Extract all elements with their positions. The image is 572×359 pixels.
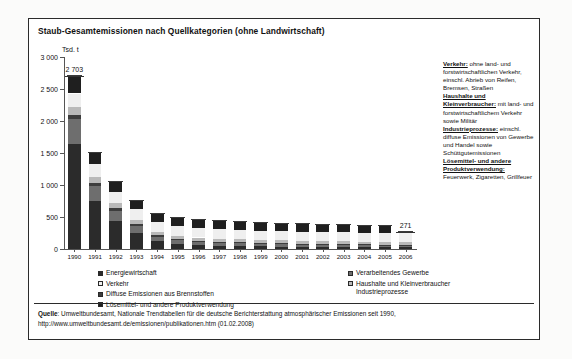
bar-2005 <box>379 226 392 249</box>
x-axis-tick <box>323 249 324 252</box>
bar-segment <box>358 244 371 245</box>
x-axis-label-2005: 2005 <box>378 253 392 260</box>
legend-item[interactable]: Verarbeitendes Gewerbe <box>348 269 450 277</box>
x-axis-label-1995: 1995 <box>171 253 185 260</box>
side-note-heading: Industrieprozesse: <box>443 125 498 132</box>
x-axis-tick <box>240 249 241 252</box>
bar-segment <box>399 242 412 245</box>
x-axis-label-1996: 1996 <box>192 253 206 260</box>
bar-segment <box>68 115 81 119</box>
bar-outline-top <box>233 221 248 222</box>
bar-segment <box>109 203 122 208</box>
side-note-heading: Lösemittel- und andere Produktverwendung… <box>443 157 511 172</box>
bar-segment <box>296 224 309 231</box>
x-axis-tick <box>199 249 200 252</box>
side-note-text: Feuerwerk, Zigaretten, Grillfeuer <box>443 173 532 180</box>
bar-2003 <box>337 225 350 249</box>
legend-column-left: EnergiewirtschaftVerkehrDiffuse Emission… <box>98 269 234 311</box>
bar-segment <box>254 243 267 244</box>
x-axis-label-1990: 1990 <box>67 253 81 260</box>
bar-outline-top <box>315 224 330 225</box>
bar-segment <box>234 239 247 242</box>
x-axis-label-1994: 1994 <box>150 253 164 260</box>
bar-segment <box>171 236 184 239</box>
annotation-leader-line <box>65 76 84 77</box>
legend-item[interactable]: Haushalte und KleinverbraucherIndustriep… <box>348 280 450 297</box>
bar-segment <box>379 242 392 245</box>
legend-item[interactable]: Verkehr <box>98 280 234 288</box>
bar-segment <box>296 232 309 241</box>
x-axis-tick <box>344 249 345 252</box>
x-axis-tick <box>364 249 365 252</box>
bar-segment <box>358 226 371 233</box>
y-axis-tick <box>60 121 64 122</box>
bar-segment <box>296 244 309 245</box>
x-axis-tick <box>178 249 179 252</box>
bar-segment <box>337 245 350 247</box>
bar-outline-top <box>357 225 372 226</box>
bar-segment <box>358 233 371 242</box>
bar-segment <box>254 223 267 230</box>
bar-1998 <box>234 222 247 249</box>
bar-outline-top <box>253 222 268 223</box>
side-note: Haushalte und Kleinverbraucher: mit land… <box>443 92 535 124</box>
bar-segment <box>151 237 164 242</box>
legend-label: Verkehr <box>106 280 129 287</box>
bar-segment <box>192 242 205 246</box>
bar-1991 <box>89 153 102 249</box>
bar-outline-top <box>150 213 165 214</box>
bar-outline-top <box>274 223 289 224</box>
bar-segment <box>171 226 184 236</box>
y-axis-tick-label: 1 000 <box>40 182 58 189</box>
annotation-leader-line <box>396 232 415 233</box>
bar-segment <box>399 245 412 247</box>
legend-label: Lösemittel- und andere Produktverwendung <box>106 301 234 308</box>
x-axis-label-1993: 1993 <box>130 253 144 260</box>
bar-segment <box>254 244 267 247</box>
annotation-value-1990: 2 703 <box>66 66 84 73</box>
bar-segment <box>89 186 102 201</box>
x-axis-tick <box>406 249 407 252</box>
bar-2000 <box>275 224 288 249</box>
bar-1993 <box>130 201 143 249</box>
bar-segment <box>130 201 143 209</box>
bar-segment <box>130 220 143 224</box>
y-axis-tick-label: 0 <box>54 246 58 253</box>
y-axis-tick <box>60 217 64 218</box>
bar-outline-top <box>191 219 206 220</box>
y-axis-tick-label: 1 500 <box>40 150 58 157</box>
legend-label: Haushalte und Kleinverbraucher <box>356 280 450 287</box>
bar-1992 <box>109 182 122 249</box>
bar-segment <box>234 242 247 243</box>
side-note: Lösemittel- und andere Produktverwendung… <box>443 157 535 181</box>
bar-segment <box>68 76 81 93</box>
legend-column-right: Verarbeitendes GewerbeHaushalte und Klei… <box>348 269 450 299</box>
bar-segment <box>192 238 205 241</box>
y-axis-unit-label: Tsd. t <box>62 46 79 53</box>
legend-item[interactable]: Diffuse Emissionen aus Brennstoffen <box>98 290 234 298</box>
legend-item[interactable]: Energiewirtschaft <box>98 269 234 277</box>
bar-segment <box>151 232 164 235</box>
x-axis-tick <box>385 249 386 252</box>
bar-segment <box>316 241 329 244</box>
x-axis-tick <box>261 249 262 252</box>
bar-segment <box>130 233 143 249</box>
bar-segment <box>68 107 81 115</box>
bar-segment <box>234 243 247 246</box>
bar-segment <box>213 242 226 243</box>
bar-segment <box>316 244 329 245</box>
bar-segment <box>171 239 184 240</box>
bar-1994 <box>151 214 164 249</box>
x-axis-label-1998: 1998 <box>233 253 247 260</box>
source-prefix: Quelle <box>38 310 58 317</box>
bar-segment <box>399 245 412 246</box>
bar-segment <box>316 245 329 247</box>
side-note: Industrieprozesse: einschl. diffuse Emis… <box>443 125 535 157</box>
bar-segment <box>213 221 226 228</box>
bar-1997 <box>213 221 226 249</box>
y-axis-tick <box>60 57 64 58</box>
legend-swatch-icon <box>98 271 103 276</box>
bar-segment <box>89 153 102 165</box>
bar-segment <box>68 119 81 144</box>
bar-2002 <box>316 225 329 249</box>
